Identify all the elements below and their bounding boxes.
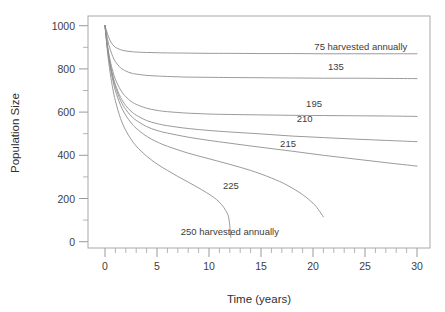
y-axis-title: Population Size	[9, 93, 21, 173]
y-tick-label: 800	[57, 63, 75, 75]
y-axis-minor-ticks	[83, 47, 88, 220]
series-label-225: 225	[223, 180, 239, 191]
series-line-250	[105, 26, 231, 238]
y-tick-label: 600	[57, 106, 75, 118]
series-label-75: 75 harvested annually	[314, 41, 407, 52]
x-tick-label: 20	[307, 260, 319, 272]
x-tick-label: 30	[411, 260, 423, 272]
y-tick-label: 1000	[52, 20, 76, 32]
x-axis-title: Time (years)	[227, 293, 291, 305]
series-label-195: 195	[306, 98, 322, 109]
x-tick-label: 15	[255, 260, 267, 272]
population-harvest-chart: 02004006008001000 051015202530 75 harves…	[0, 0, 445, 312]
y-tick-label: 400	[57, 149, 75, 161]
series-inline-labels: 75 harvested annually135195210215225250 …	[181, 41, 408, 238]
y-tick-label: 0	[69, 236, 75, 248]
x-tick-label: 5	[154, 260, 160, 272]
y-axis-tick-labels: 02004006008001000	[52, 20, 76, 248]
series-line-195	[105, 26, 417, 117]
x-tick-label: 10	[203, 260, 215, 272]
x-axis-major-ticks	[105, 248, 417, 257]
y-tick-label: 200	[57, 193, 75, 205]
chart-canvas: 02004006008001000 051015202530 75 harves…	[0, 0, 445, 312]
series-label-250: 250 harvested annually	[181, 226, 279, 237]
series-label-215: 215	[280, 138, 296, 149]
series-curves	[105, 26, 417, 238]
x-tick-label: 0	[102, 260, 108, 272]
x-axis-tick-labels: 051015202530	[102, 260, 423, 272]
series-label-135: 135	[328, 61, 344, 72]
x-tick-label: 25	[359, 260, 371, 272]
series-label-210: 210	[297, 113, 313, 124]
